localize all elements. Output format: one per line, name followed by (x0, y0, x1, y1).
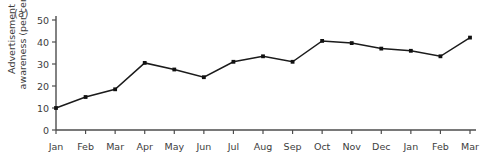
data-point-marker (84, 95, 88, 99)
data-point-marker (113, 87, 117, 91)
data-point-marker (409, 49, 413, 53)
x-tick-label: Jan (403, 141, 419, 152)
y-tick-label: 20 (37, 81, 49, 92)
y-tick-label: 30 (37, 59, 49, 70)
x-tick-label: Mar (461, 141, 479, 152)
chart-figure: (a) Advertisement awareness (per cent) 0… (0, 0, 482, 167)
data-point-marker (468, 36, 472, 40)
data-point-marker (172, 68, 176, 72)
x-tick-label: Mar (106, 141, 124, 152)
y-tick-label: 50 (37, 15, 49, 26)
y-tick-label: 10 (37, 103, 49, 114)
y-tick-label: 0 (43, 125, 49, 136)
data-point-marker (54, 106, 58, 110)
x-axis-ticks: JanFebMarAprMayJunJulAugSepOctNovDecJanF… (48, 130, 479, 152)
x-tick-label: Aug (254, 141, 273, 152)
x-tick-label: Apr (136, 141, 153, 152)
x-tick-label: Dec (372, 141, 390, 152)
y-axis-ticks: 01020304050 (37, 15, 56, 136)
data-point-marker (350, 41, 354, 45)
x-tick-label: Nov (342, 141, 361, 152)
data-point-marker (379, 47, 383, 51)
data-point-marker (232, 60, 236, 64)
x-tick-label: Sep (284, 141, 302, 152)
x-tick-label: Feb (432, 141, 449, 152)
data-point-marker (202, 75, 206, 79)
x-tick-label: May (164, 141, 184, 152)
data-point-marker (291, 60, 295, 64)
x-tick-label: Jan (48, 141, 64, 152)
line-chart-plot: 01020304050 JanFebMarAprMayJunJulAugSepO… (0, 0, 482, 167)
data-point-marker (261, 54, 265, 58)
data-point-marker (320, 39, 324, 43)
data-point-marker (143, 61, 147, 65)
y-tick-label: 40 (37, 37, 49, 48)
data-point-marker (439, 54, 443, 58)
x-tick-label: Feb (77, 141, 94, 152)
x-tick-label: Oct (314, 141, 331, 152)
series-line-advertisement-awareness (56, 38, 470, 108)
x-tick-label: Jul (227, 141, 239, 152)
series-markers (54, 36, 472, 110)
x-tick-label: Jun (195, 141, 211, 152)
